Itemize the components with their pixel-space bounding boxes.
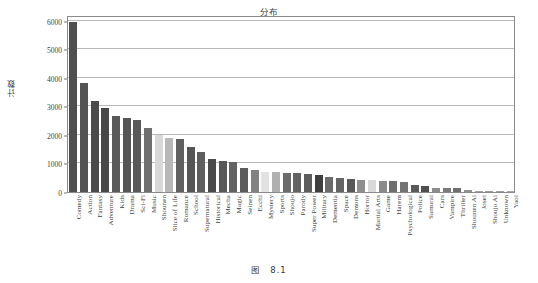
x-tick-label: Adventure [107,195,115,225]
bar-series [68,17,514,192]
bar [443,188,451,192]
x-tick-label: Harem [395,195,403,215]
bar [357,180,365,192]
x-tick-label: Music [150,195,158,213]
x-tick-label: Unknown [502,195,510,223]
x-tick-label: Action [86,195,94,215]
y-tick-label: 1000 [47,160,62,169]
bar [475,191,483,192]
x-tick-label: Ecchi [256,195,264,211]
bar [453,188,461,192]
bar [251,170,259,192]
x-tick-label: Shoujo [288,195,296,215]
bar [229,162,237,192]
bar [91,101,99,192]
caption-prefix: 图 [251,265,260,275]
bar [165,138,173,192]
figure-caption: 图8.1 [0,263,538,275]
bar [379,181,387,192]
y-tick-label: 5000 [47,46,62,55]
x-tick-label: Sci-Fi [139,195,147,213]
x-tick-label: Mecha [224,195,232,215]
bar [485,191,493,192]
x-tick-label: Fantasy [96,195,104,217]
x-tick-label: Samurai [427,195,435,219]
bar [197,152,205,192]
x-tick-label: Demons [352,195,360,219]
bar [240,168,248,192]
y-axis: 0100020003000400050006000 [0,16,67,193]
bar [400,182,408,192]
bar [283,173,291,192]
x-tick-label: Space [342,195,350,212]
x-tick-label: Game [384,195,392,212]
bar [187,147,195,192]
bar [304,174,312,192]
x-tick-label: Supernatural [203,195,211,232]
bar [464,190,472,192]
x-tick-label: Historical [214,195,222,224]
x-tick-label: Vampire [448,195,456,219]
x-tick-label: Shounen Ai [470,195,478,229]
figure-container: 分布 0100020003000400050006000 计数 ComedyAc… [0,0,538,283]
y-tick-label: 6000 [47,17,62,26]
bar [101,108,109,192]
plot-area [67,16,515,193]
x-tick-label: Slice of Life [171,195,179,231]
bar [421,186,429,192]
bar [368,180,376,192]
x-tick-label: Shoujo Ai [491,195,499,224]
x-tick-label: Romance [182,195,190,222]
bar [389,181,397,192]
x-tick-label: Cars [438,195,446,208]
bar [123,118,131,192]
bar [219,161,227,192]
y-tick-label: 0 [58,189,62,198]
caption-number: 8.1 [270,265,287,275]
bar [336,178,344,192]
x-tick-label: Mystery [267,195,275,219]
bar [347,179,355,192]
y-tick-label: 4000 [47,74,62,83]
bar [208,159,216,192]
bar [411,185,419,192]
bar [144,128,152,192]
bar [112,116,120,192]
bar [155,135,163,192]
y-tick-label: 3000 [47,103,62,112]
x-tick-label: Yaoi [512,195,520,208]
y-tick-label: 2000 [47,131,62,140]
bar [293,173,301,192]
x-tick-label: Martial Arts [374,195,382,230]
bar [69,22,77,192]
bar [507,191,515,192]
bar [325,177,333,192]
x-tick-label: Horror [363,195,371,215]
bar [496,191,504,192]
x-tick-label: Comedy [75,195,83,219]
x-tick-label: Parody [299,195,307,215]
x-tick-label: Magic [235,195,243,213]
x-axis: ComedyActionFantasyAdventureKidsDramaSci… [67,193,515,263]
x-tick-label: Drama [128,195,136,215]
x-tick-label: School [192,195,200,215]
bar [272,172,280,192]
x-tick-label: Psychological [406,195,414,236]
x-tick-label: Super Power [310,195,318,232]
bar [261,172,269,192]
x-tick-label: Seinen [246,195,254,215]
bar [315,175,323,192]
y-axis-label: 计数 [6,79,17,97]
x-tick-label: Kids [118,195,126,209]
x-tick-label: Sports [278,195,286,214]
bar [133,120,141,193]
x-tick-label: Thriller [459,195,467,217]
bar [80,83,88,192]
x-tick-label: Dementia [331,195,339,223]
bar [176,139,184,192]
x-tick-label: Police [416,195,424,213]
x-tick-label: Josei [480,195,488,210]
x-tick-label: Military [320,195,328,219]
bar [432,188,440,192]
x-tick-label: Shounen [160,195,168,220]
